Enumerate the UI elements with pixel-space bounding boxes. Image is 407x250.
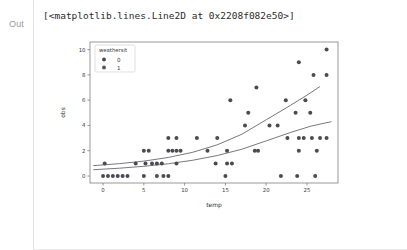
output-prompt-gutter: Out — [0, 0, 33, 250]
scatter-plot: 05101520250246810tempobsweathersit01 — [56, 33, 348, 213]
x-tick-label: 0 — [101, 187, 105, 193]
x-tick-label: 25 — [304, 187, 311, 193]
y-axis-title: obs — [59, 107, 66, 118]
output-prompt-label: Out — [9, 19, 24, 29]
matplotlib-figure: 05101520250246810tempobsweathersit01 — [56, 33, 348, 213]
y-tick-label: 10 — [79, 47, 86, 53]
x-tick-label: 5 — [142, 187, 145, 193]
y-tick-label: 8 — [82, 72, 86, 78]
x-tick-label: 20 — [263, 187, 270, 193]
y-tick-label: 4 — [82, 122, 86, 128]
legend-marker-0 — [102, 58, 106, 62]
x-axis-title: temp — [206, 201, 222, 209]
x-tick-label: 15 — [222, 187, 229, 193]
legend-title: weathersit — [99, 47, 127, 53]
legend-label-1: 1 — [117, 65, 121, 71]
y-tick-label: 2 — [82, 148, 85, 154]
legend-label-0: 0 — [117, 57, 121, 63]
y-tick-label: 6 — [82, 97, 86, 103]
legend-marker-1 — [102, 66, 106, 70]
notebook-output-cell: Out [<matplotlib.lines.Line2D at 0x2208f… — [0, 0, 407, 250]
x-tick-label: 10 — [181, 187, 188, 193]
repr-text: [<matplotlib.lines.Line2D at 0x2208f082e… — [43, 10, 295, 21]
y-tick-label: 0 — [82, 173, 86, 179]
output-body: [<matplotlib.lines.Line2D at 0x2208f082e… — [33, 0, 407, 250]
